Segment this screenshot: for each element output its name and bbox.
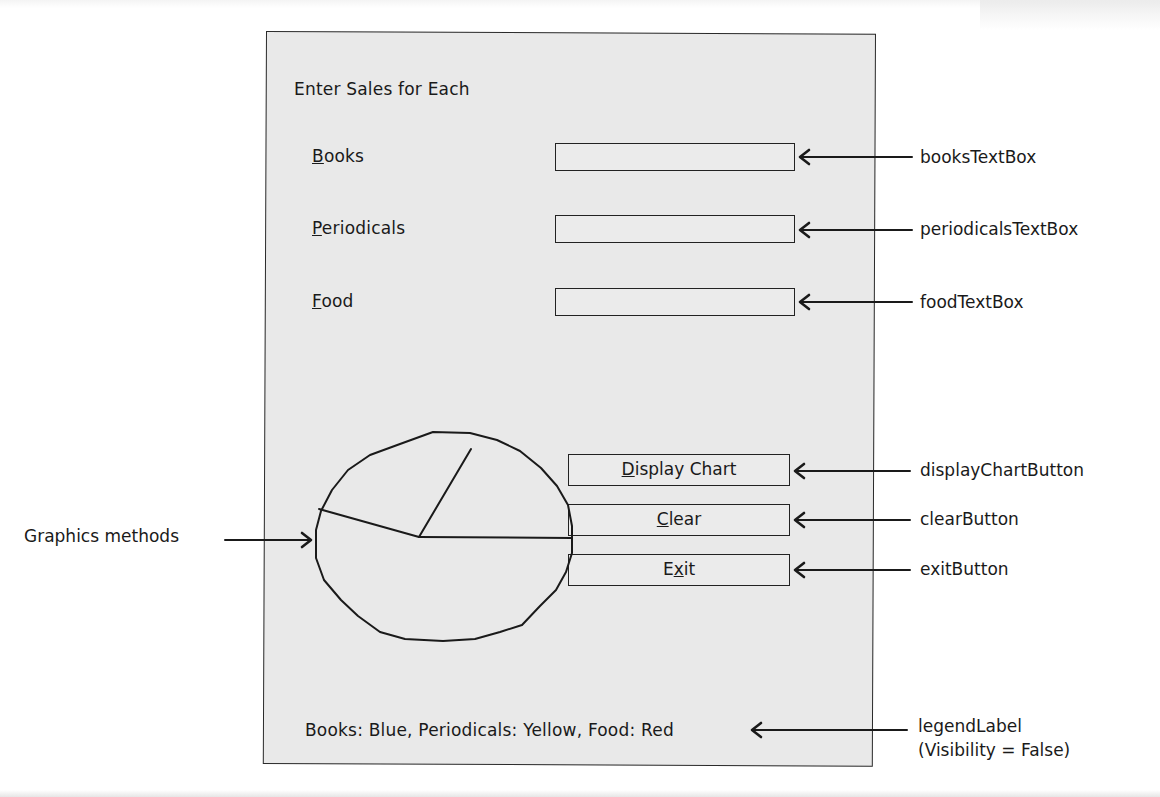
display-chart-post: isplay Chart xyxy=(635,459,737,479)
form-window xyxy=(263,31,876,767)
display-chart-access-key: D xyxy=(622,459,635,479)
periodicals-access-key: P xyxy=(312,218,322,238)
food-label: Food xyxy=(312,291,354,311)
callout-legend-label: legendLabel xyxy=(918,716,1022,737)
periodicals-label: Periodicals xyxy=(312,218,405,238)
books-label: Books xyxy=(312,146,364,166)
display-chart-button[interactable]: Display Chart xyxy=(568,454,790,486)
books-access-key: B xyxy=(312,146,324,166)
exit-post: it xyxy=(684,559,695,579)
callout-graphics-methods: Graphics methods xyxy=(24,526,179,547)
food-textbox[interactable] xyxy=(555,288,795,316)
legend-label: Books: Blue, Periodicals: Yellow, Food: … xyxy=(305,720,674,740)
callout-periodicals-textbox: periodicalsTextBox xyxy=(920,219,1078,240)
periodicals-label-rest: eriodicals xyxy=(322,218,405,238)
clear-access-key: C xyxy=(657,509,669,529)
callout-exit-button: exitButton xyxy=(920,559,1009,580)
callout-display-chart-button: displayChartButton xyxy=(920,460,1084,481)
exit-pre: E xyxy=(663,559,674,579)
exit-access-key: x xyxy=(674,559,684,579)
food-access-key: F xyxy=(312,291,321,311)
page-shading xyxy=(980,0,1160,30)
callout-clear-button: clearButton xyxy=(920,509,1019,530)
callout-food-textbox: foodTextBox xyxy=(920,292,1024,313)
callout-books-textbox: booksTextBox xyxy=(920,147,1036,168)
clear-button[interactable]: Clear xyxy=(568,504,790,536)
books-label-rest: ooks xyxy=(324,146,364,166)
clear-post: lear xyxy=(669,509,702,529)
callout-legend-visibility-note: (Visibility = False) xyxy=(918,740,1070,761)
periodicals-textbox[interactable] xyxy=(555,215,795,243)
form-heading: Enter Sales for Each xyxy=(294,79,470,99)
food-label-rest: ood xyxy=(321,291,353,311)
exit-button[interactable]: Exit xyxy=(568,554,790,586)
bottom-page-edge xyxy=(0,790,1160,797)
books-textbox[interactable] xyxy=(555,143,795,171)
